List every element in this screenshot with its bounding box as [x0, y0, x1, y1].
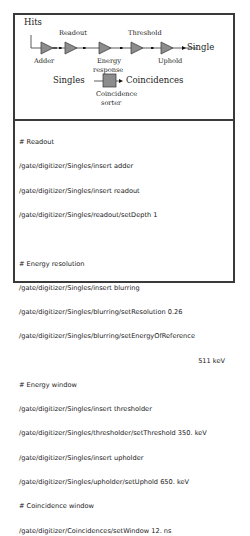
hits-label: Hits — [24, 17, 42, 27]
arrow-head-icon — [182, 46, 186, 50]
code-line: # Energy window — [19, 381, 233, 389]
uphold-label: Uphold — [158, 57, 182, 65]
energy-response-module-icon — [99, 42, 111, 54]
macro-code-block: # Readout /gate/digitizer/Singles/insert… — [19, 122, 233, 536]
single-output-label: Single — [187, 42, 214, 52]
sorter-label-line1: Coincidence — [96, 90, 137, 98]
section-divider — [15, 119, 235, 121]
figure-frame: Hits Readout Threshold Single Adder Ener… — [13, 13, 235, 283]
code-line: /gate/digitizer/Singles/insert upholder — [19, 454, 233, 462]
code-line: /gate/digitizer/Singles/insert adder — [19, 162, 233, 170]
code-line: /gate/digitizer/Singles/blurring/setEner… — [19, 332, 233, 340]
threshold-module-icon — [131, 42, 143, 54]
code-line: /gate/digitizer/Singles/insert threshold… — [19, 405, 233, 413]
code-line: # Energy resolution — [19, 260, 233, 268]
code-blank-line — [19, 235, 233, 243]
arrow-head-icon — [119, 79, 123, 83]
uphold-module-icon — [161, 42, 173, 54]
adder-label: Adder — [34, 57, 54, 65]
digitizer-chain-diagram: Hits Readout Threshold Single Adder Ener… — [15, 15, 237, 120]
energy-label-line2: response — [93, 66, 123, 74]
coincidences-output-label: Coincidences — [126, 75, 183, 85]
code-line: /gate/digitizer/Singles/readout/setDepth… — [19, 211, 233, 219]
code-line: /gate/digitizer/Coincidences/setWindow 1… — [19, 527, 233, 535]
adder-module-icon — [41, 42, 53, 54]
code-line: /gate/digitizer/Singles/insert readout — [19, 187, 233, 195]
connector-dot-icon — [120, 47, 123, 49]
diagram-graphics — [15, 15, 237, 120]
energy-label-line1: Energy — [97, 57, 121, 65]
threshold-label: Threshold — [128, 29, 162, 37]
code-line: /gate/digitizer/Singles/upholder/setUpho… — [19, 478, 233, 486]
code-line: /gate/digitizer/Singles/insert blurring — [19, 284, 233, 292]
code-line-continuation: 511 keV — [19, 357, 233, 365]
coincidence-sorter-box-icon — [103, 74, 116, 87]
code-line: /gate/digitizer/Singles/thresholder/setT… — [19, 429, 233, 437]
connector-dot-icon — [83, 47, 86, 49]
singles-input-label: Singles — [53, 75, 85, 85]
readout-module-icon — [65, 42, 77, 54]
code-line: # Coincidence window — [19, 502, 233, 510]
connector-dot-icon — [151, 47, 154, 49]
connector-dot-icon — [59, 47, 62, 49]
readout-label: Readout — [59, 29, 87, 37]
code-line: /gate/digitizer/Singles/blurring/setReso… — [19, 308, 233, 316]
sorter-label-line2: sorter — [101, 99, 121, 107]
hits-connector-line — [31, 35, 41, 48]
code-line: # Readout — [19, 138, 233, 146]
